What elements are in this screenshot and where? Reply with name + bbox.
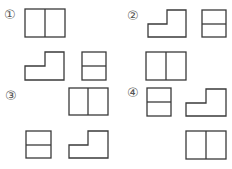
option-1[interactable]: ① — [4, 7, 106, 80]
split-rect-vertical-view — [25, 9, 65, 37]
split-rect-horizontal-view — [147, 88, 171, 116]
option-2[interactable]: ② — [127, 8, 226, 80]
option-label: ① — [4, 7, 16, 22]
option-4[interactable]: ④ — [127, 85, 226, 159]
option-3[interactable]: ③ — [5, 88, 108, 158]
l-shape-view — [69, 131, 108, 158]
split-rect-vertical-view — [146, 52, 186, 80]
split-rect-horizontal-view — [202, 10, 226, 37]
option-label: ④ — [127, 85, 139, 100]
multiview-projection-options: ① ② ③ — [0, 0, 232, 169]
split-rect-vertical-view — [69, 88, 108, 115]
l-shape-view — [186, 89, 226, 116]
l-shape-view — [25, 52, 64, 80]
split-rect-horizontal-view — [82, 52, 106, 80]
split-rect-horizontal-view — [26, 131, 51, 158]
split-rect-vertical-view — [186, 131, 226, 159]
l-shape-view — [148, 10, 186, 37]
option-label: ② — [127, 8, 139, 23]
option-label: ③ — [5, 88, 17, 103]
